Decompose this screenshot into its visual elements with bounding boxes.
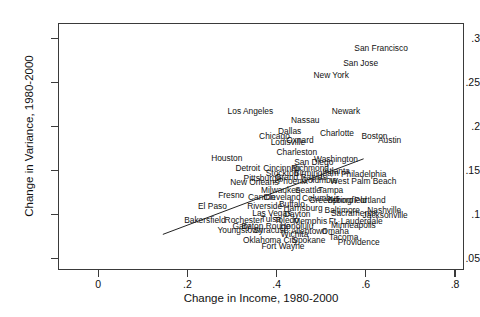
data-point-label: Houston xyxy=(211,154,242,163)
x-tick-mark xyxy=(187,270,188,277)
plot-frame: San FranciscoSan JoseNew YorkLos Angeles… xyxy=(58,23,464,270)
y-tick-mark xyxy=(51,38,58,39)
data-point-label: San Francisco xyxy=(354,44,408,53)
data-point-label: El Paso xyxy=(198,202,227,211)
data-point-label: Charlotte xyxy=(320,128,354,137)
x-tick-label: 0 xyxy=(78,278,118,290)
data-point-label: Fresno xyxy=(218,190,244,199)
data-point-label: Bakersfield xyxy=(184,215,225,224)
data-point-label: Portland xyxy=(354,196,385,205)
y-tick-mark xyxy=(51,82,58,83)
data-point-label: Fort Wayne xyxy=(261,241,304,250)
data-point-label: Charleston xyxy=(277,147,318,156)
x-tick-label: .2 xyxy=(167,278,207,290)
data-point-label: New York xyxy=(313,70,348,79)
plot-area: San FranciscoSan JoseNew YorkLos Angeles… xyxy=(59,24,463,269)
x-tick-label: .6 xyxy=(346,278,386,290)
data-point-label: Austin xyxy=(378,136,401,145)
y-axis-title: Change in Variance, 1980-2000 xyxy=(23,11,35,261)
data-point-label: Newark xyxy=(332,107,360,116)
y-tick-mark xyxy=(51,214,58,215)
data-point-label: San Jose xyxy=(343,59,378,68)
y-tick-mark xyxy=(51,258,58,259)
data-point-label: Los Angeles xyxy=(228,106,274,115)
data-point-label: Providence xyxy=(338,237,380,246)
data-point-label: Nassau xyxy=(291,116,319,125)
y-tick-mark xyxy=(51,170,58,171)
x-tick-mark xyxy=(454,270,455,277)
x-axis-title: Change in Income, 1980-2000 xyxy=(58,292,464,304)
x-tick-label: .8 xyxy=(435,278,475,290)
scatter-plot-figure: Change in Variance, 1980-2000 .05.1.15.2… xyxy=(0,0,480,317)
x-tick-mark xyxy=(98,270,99,277)
data-point-label: Louisville xyxy=(271,138,305,147)
x-tick-mark xyxy=(365,270,366,277)
data-point-label: Detroit xyxy=(235,164,260,173)
y-tick-mark xyxy=(51,126,58,127)
x-tick-label: .4 xyxy=(257,278,297,290)
x-tick-mark xyxy=(276,270,277,277)
